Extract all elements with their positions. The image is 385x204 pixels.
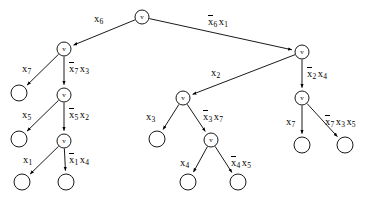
literal-variable: x bbox=[80, 154, 85, 165]
literal-subscript: 3 bbox=[151, 115, 155, 124]
tree-edge bbox=[74, 20, 135, 45]
literal-variable: x bbox=[69, 109, 74, 120]
literal-variable: x bbox=[203, 111, 208, 122]
literal-subscript: 3 bbox=[208, 115, 212, 124]
node-circle bbox=[149, 131, 165, 147]
edge-label: x1 bbox=[23, 155, 32, 167]
negated-literal: x6 bbox=[208, 17, 217, 29]
node-label: v bbox=[300, 48, 304, 56]
tree-leaf-node bbox=[294, 137, 310, 153]
edge-label: x3x7 bbox=[203, 112, 223, 124]
node-circle bbox=[11, 85, 27, 101]
edge-label: x7x3 bbox=[69, 64, 89, 76]
edge-label: x7 bbox=[286, 117, 295, 129]
node-label: v bbox=[62, 91, 66, 99]
node-label: v bbox=[181, 94, 185, 102]
edge-label: x4 bbox=[180, 158, 189, 170]
decision-tree-diagram: vvvvvvvv x6x6x1x7x7x3x5x5x2x1x1x4x2x2x4x… bbox=[0, 0, 385, 204]
literal-subscript: 3 bbox=[341, 120, 345, 129]
literal-subscript: 1 bbox=[74, 158, 78, 167]
tree-leaf-node bbox=[58, 174, 74, 190]
literal-subscript: 6 bbox=[213, 20, 217, 29]
literal-variable: x bbox=[94, 13, 99, 24]
literal-subscript: 2 bbox=[312, 72, 316, 81]
literal-subscript: 2 bbox=[85, 113, 89, 122]
literal-subscript: 4 bbox=[85, 158, 89, 167]
literal-variable: x bbox=[307, 68, 312, 79]
literal-variable: x bbox=[208, 16, 213, 27]
literal: x4 bbox=[180, 158, 189, 170]
edge-label: x4x5 bbox=[231, 158, 251, 170]
node-circle bbox=[337, 137, 353, 153]
literal: x5 bbox=[242, 158, 251, 170]
literal-subscript: 7 bbox=[27, 67, 31, 76]
edge-label: x6x1 bbox=[208, 17, 228, 29]
tree-internal-node: v bbox=[135, 10, 149, 24]
node-label: v bbox=[300, 94, 304, 102]
node-label: v bbox=[209, 136, 213, 144]
node-label: v bbox=[140, 13, 144, 21]
literal: x1 bbox=[219, 17, 228, 29]
literal-subscript: 7 bbox=[330, 120, 334, 129]
literal-variable: x bbox=[211, 67, 216, 78]
literal: x6 bbox=[94, 14, 103, 26]
literal: x2 bbox=[211, 68, 220, 80]
negated-literal: x4 bbox=[231, 158, 240, 170]
tree-leaf-node bbox=[149, 131, 165, 147]
literal: x3 bbox=[146, 112, 155, 124]
tree-graphics: vvvvvvvv bbox=[0, 0, 385, 204]
negated-literal: x5 bbox=[69, 110, 78, 122]
node-circle bbox=[230, 174, 246, 190]
edge-label: x7x3x5 bbox=[325, 117, 356, 129]
tree-edge bbox=[64, 148, 65, 170]
literal: x4 bbox=[318, 69, 327, 81]
tree-leaf-node bbox=[11, 131, 27, 147]
negated-literal: x3 bbox=[203, 112, 212, 124]
tree-leaf-node bbox=[11, 85, 27, 101]
edge-label: x2 bbox=[211, 68, 220, 80]
literal-subscript: 2 bbox=[216, 71, 220, 80]
tree-internal-node: v bbox=[295, 91, 309, 105]
literal: x7 bbox=[214, 112, 223, 124]
literal-variable: x bbox=[146, 111, 151, 122]
literal: x5 bbox=[346, 117, 355, 129]
tree-internal-node: v bbox=[57, 88, 71, 102]
literal-variable: x bbox=[219, 16, 224, 27]
literal: x4 bbox=[80, 155, 89, 167]
tree-edge bbox=[193, 147, 207, 172]
edge-label: x7 bbox=[22, 64, 31, 76]
literal-subscript: 4 bbox=[236, 161, 240, 170]
negated-literal: x7 bbox=[69, 64, 78, 76]
node-label: v bbox=[62, 45, 66, 53]
literal: x2 bbox=[80, 110, 89, 122]
negated-literal: x2 bbox=[307, 69, 316, 81]
literal-subscript: 4 bbox=[323, 72, 327, 81]
node-circle bbox=[11, 131, 27, 147]
literal: x5 bbox=[22, 110, 31, 122]
tree-edge bbox=[215, 146, 232, 172]
literal-subscript: 7 bbox=[291, 120, 295, 129]
node-circle bbox=[14, 174, 30, 190]
literal: x1 bbox=[23, 155, 32, 167]
literal-variable: x bbox=[69, 154, 74, 165]
edge-label: x6 bbox=[94, 14, 103, 26]
literal-variable: x bbox=[325, 116, 330, 127]
literal: x3 bbox=[80, 64, 89, 76]
literal-variable: x bbox=[80, 63, 85, 74]
literal-subscript: 5 bbox=[27, 113, 31, 122]
literal: x7 bbox=[22, 64, 31, 76]
literal-variable: x bbox=[22, 63, 27, 74]
literal-variable: x bbox=[214, 111, 219, 122]
edge-label: x5x2 bbox=[69, 110, 89, 122]
literal-subscript: 7 bbox=[219, 115, 223, 124]
literal: x3 bbox=[336, 117, 345, 129]
tree-internal-node: v bbox=[176, 91, 190, 105]
tree-leaf-node bbox=[14, 174, 30, 190]
literal-subscript: 5 bbox=[74, 113, 78, 122]
edge-label: x1x4 bbox=[69, 155, 89, 167]
literal-subscript: 1 bbox=[224, 20, 228, 29]
node-label: v bbox=[62, 137, 66, 145]
literal-variable: x bbox=[22, 109, 27, 120]
node-circle bbox=[294, 137, 310, 153]
literal-variable: x bbox=[23, 154, 28, 165]
